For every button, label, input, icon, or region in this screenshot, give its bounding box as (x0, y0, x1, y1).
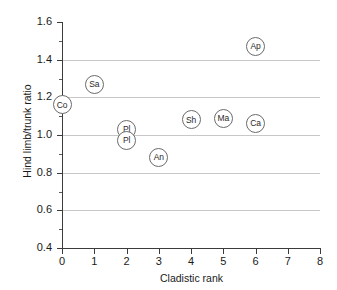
x-axis-tick (159, 249, 160, 254)
data-point-marker: Sa (85, 75, 104, 94)
x-axis-tick (62, 249, 63, 254)
x-axis-title: Cladistic rank (62, 272, 321, 284)
x-axis-tick-label: 0 (52, 256, 72, 267)
y-axis-title: Hind limb/trunk ratio (21, 51, 33, 211)
x-axis-tick (94, 249, 95, 254)
x-axis-tick-label: 8 (310, 256, 330, 267)
y-axis-tick-label: 1.6 (12, 16, 52, 27)
chart-figure: 0.40.60.81.01.21.41.6 012345678 CoSaPlPl… (0, 0, 337, 290)
x-axis-tick-label: 1 (84, 256, 104, 267)
data-point-marker: Sh (182, 110, 201, 129)
data-point-marker: Ma (214, 109, 233, 128)
x-axis-tick-label: 2 (117, 256, 137, 267)
x-axis-tick (256, 249, 257, 254)
x-axis-tick-label: 5 (213, 256, 233, 267)
x-axis-tick (127, 249, 128, 254)
x-axis-tick (223, 249, 224, 254)
data-point-marker: Ap (246, 37, 265, 56)
plot-area: CoSaPlPlAnShMaCaAp (62, 22, 320, 248)
x-axis-tick (288, 249, 289, 254)
data-point-marker: Ca (246, 114, 265, 133)
x-axis-tick (320, 249, 321, 254)
x-axis-tick (191, 249, 192, 254)
data-point-marker: Co (53, 95, 72, 114)
data-point-marker: An (149, 148, 168, 167)
x-axis-tick-label: 7 (278, 256, 298, 267)
x-axis-tick-label: 3 (149, 256, 169, 267)
y-axis-tick-label: 0.4 (12, 242, 52, 253)
x-axis-tick-label: 6 (246, 256, 266, 267)
data-point-marker: Pl (117, 131, 136, 150)
x-axis-tick-label: 4 (181, 256, 201, 267)
